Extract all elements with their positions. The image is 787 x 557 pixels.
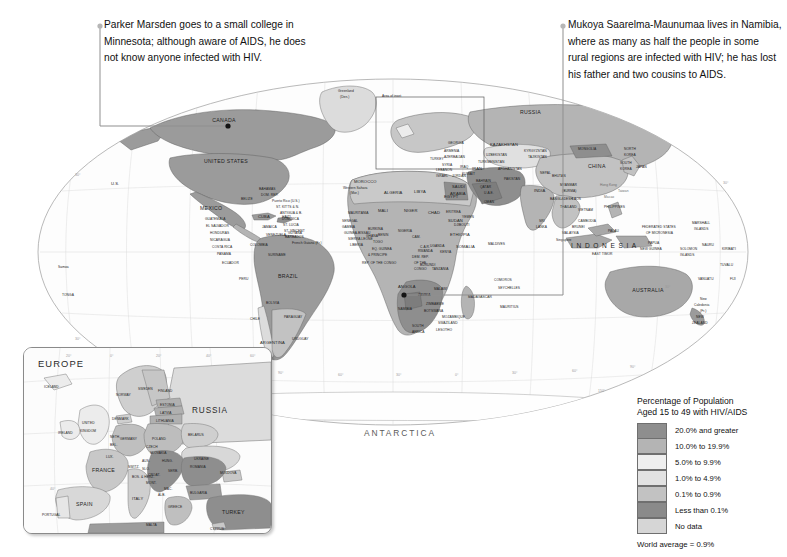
inset-label-slovakia: SLOVAKIA [150,451,167,455]
label-canada: CANADA [212,117,236,123]
label-iran: IRAN [472,166,482,171]
legend-title-line1: Percentage of Population [637,396,734,406]
label-saudi-2: ARABIA [450,191,466,196]
label-barbados: BARBADOS [285,235,304,239]
label-micronesia-1: FEDERATED STATES [642,225,677,229]
label-mexico: MEXICO [200,205,222,211]
label-morocco: MOROCCO [354,179,377,184]
legend-item: Less than 0.1% [637,503,787,519]
callout-right-text: Mukoya Saarelma-Maunumaa lives in Namibi… [568,17,782,83]
inset-label-bosnia: BOS. & HERZ. [132,475,154,479]
label-bahamas: BAHAMAS [259,187,276,191]
inset-label-montenegro: MONT. [146,481,157,485]
inset-label-moldova: MOLDOVA [220,471,237,475]
label-tanzania: TANZANIA [432,267,449,271]
label-bahrain: BAHRAIN [476,179,492,183]
gridlabel-lon-90w: 90° [278,371,284,375]
label-micronesia-2: OF MICRONESIA [646,231,674,235]
label-suriname: SURINAME [268,253,287,257]
inset-label-macedonia: MAC. [164,487,172,491]
label-armenia: ARMENIA [444,149,460,153]
label-somalia: SOMALIA [456,244,475,249]
legend-label: Less than 0.1% [675,506,728,515]
label-french-guiana: French Guiana (Fr.) [292,241,322,245]
label-cameroon: CAM. [412,235,420,239]
legend-item: 5.0% to 9.9% [637,455,787,471]
label-nauru: NAURU [702,243,715,247]
label-mauritania: MAURITANIA [348,211,369,215]
inset-label-lithuania: LITHUANIA [156,419,174,423]
label-panama: PANAMA [217,252,232,256]
label-jamaica: JAMAICA [262,225,277,229]
gridlabel-lon-150e: 150° [598,389,606,393]
label-belize: BELIZE [241,197,253,201]
inset-label-czech: CZECH [146,445,158,449]
label-nicaragua: NICARAGUA [210,238,231,242]
label-uzbekistan: UZBEKISTAN [486,153,508,157]
label-vanuatu: VANUATU [698,277,714,281]
inset-label-luxembourg: LUX. [106,455,114,459]
label-lesotho: LESOTHO [436,328,452,332]
label-turkmenistan: TURKMENISTAN [478,160,505,164]
legend-swatch [637,502,667,518]
label-mozambique: MOZAMBIQUE [442,315,466,319]
label-turkey: TURKEY [430,157,444,161]
inset-label-serbia: SERB. [168,469,178,473]
gridlabel-lon-30w: 30° [396,373,402,377]
label-united-states: UNITED STATES [204,158,248,164]
label-malawi: MALAWI [434,287,447,291]
inset-label-sweden: SWEDEN [138,387,153,391]
label-nepal: NEPAL [540,171,551,175]
label-brunei: BRUNEI [572,225,585,229]
label-pakistan: PAKISTAN [504,177,521,181]
label-south-korea-1: SOUTH [620,161,632,165]
label-djibouti: DJIBOUTI [454,223,469,227]
label-swaziland: SWAZILAND [438,321,458,325]
legend-title: Percentage of Population Aged 15 to 49 w… [637,396,787,419]
inset-label-greece: GREECE [168,505,183,509]
label-tuvalu: TUVALU [720,263,734,267]
legend-label: 5.0% to 9.9% [675,458,721,467]
label-western-sahara-mor: (Mor.) [350,191,359,195]
label-puerto-rico: Puerto Rico (U.S.) [272,199,300,203]
inset-label-france: FRANCE [92,467,115,473]
label-marshall-2: ISLANDS [694,227,709,231]
callout-left-anchor-dot [225,123,230,128]
label-us-hawaii: U.S. [111,181,119,186]
inset-gridlabel-0: 0° [110,354,114,358]
inset-label-russia: RUSSIA [192,406,228,415]
label-greenland-2: (Den.) [340,95,349,99]
label-png-2: NEW GUINEA [640,247,662,251]
label-brazil: BRAZIL [278,273,298,279]
label-honduras: HONDURAS [210,231,230,235]
hiv-aids-world-map-figure: CANADA UNITED STATES U.S. MEXICO BELIZE … [0,0,787,557]
inset-label-germany: GERMANY [120,437,138,441]
label-taiwan: Taiwan [618,189,629,193]
label-ecuador: ECUADOR [222,261,239,265]
inset-title: EUROPE [38,358,84,369]
label-togo: TOGO [373,240,383,244]
gridlabel-lon-30e: 30° [512,371,518,375]
legend-label: No data [675,522,702,531]
inset-gridlabel-40n: 40° [50,487,56,491]
label-bhutan: BHUTAN [552,174,566,178]
label-south-korea-2: KOREA [620,167,633,171]
inset-svg: ICELAND NORWAY SWEDEN FINLAND ESTONIA LA… [24,348,271,533]
label-cuba: CUBA [258,214,270,219]
label-ethiopia: ETHIOPIA [450,232,470,237]
label-japan: JAPAN [636,165,647,169]
label-hong-kong: Hong Kong [600,183,617,187]
legend-label: 10.0% to 19.9% [675,442,729,451]
label-liberia: LIBERIA [350,243,364,247]
label-niger: NIGER [404,208,417,213]
label-syria: SYRIA [442,163,453,167]
label-dem-rep-congo-3: CONGO [414,267,427,271]
label-new-caledonia-3: (Fr.) [700,309,706,313]
label-benin: BENIN [378,233,389,237]
label-macao: Macao [604,195,614,199]
label-russia: RUSSIA [520,109,541,115]
legend-item: 1.0% to 4.9% [637,471,787,487]
inset-label-italy: ITALY [132,496,143,501]
gridlabel-lat-30n: 30° [75,173,81,177]
label-seychelles: SEYCHELLES [498,286,521,290]
